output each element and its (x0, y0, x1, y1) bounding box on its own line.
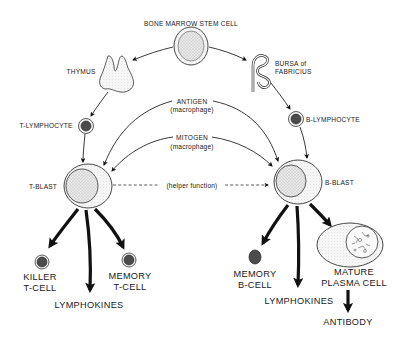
arrow-b-blast-to-memory-b (263, 205, 288, 243)
lymphokines-b-label: LYMPHOKINES (265, 296, 334, 306)
bursa-label-line2: FABRICIUS (275, 68, 312, 75)
t-lymphocyte-label: T-LYMPHOCYTE (19, 122, 73, 129)
mitogen-label: MITOGEN (176, 134, 208, 141)
helper-function-label: (helper function) (166, 182, 217, 190)
plasma-cell-label-line2: PLASMA CELL (321, 278, 387, 288)
thymus-label: THYMUS (66, 68, 95, 75)
bursa-label-line1: BURSA of (275, 60, 306, 67)
memory-t-cell-node: MEMORY T-CELL (109, 253, 152, 292)
arrow-stem-to-bursa (209, 47, 246, 60)
t-blast-node: T-BLAST (29, 164, 112, 208)
arrow-mitogen-to-b-blast (212, 137, 272, 166)
bursa-node: BURSA of FABRICIUS (253, 55, 312, 92)
arrow-mitogen-to-t-blast (112, 137, 173, 171)
plasma-cell-label-line1: MATURE (334, 267, 374, 277)
mitogen-sublabel: (macrophage) (170, 143, 213, 151)
arrow-stem-to-thymus (133, 47, 173, 60)
arrow-t-blast-to-killer (50, 209, 78, 246)
arrow-thymus-to-t-lymphocyte (91, 92, 108, 116)
antigen-sublabel: (macrophage) (170, 106, 213, 114)
memory-b-cell-node: MEMORY B-CELL (234, 250, 277, 290)
stem-cell-label: BONE MARROW STEM CELL (144, 20, 238, 27)
t-blast-label: T-BLAST (29, 183, 57, 190)
thymus-icon (100, 56, 134, 92)
arrow-b-lymphocyte-to-b-blast (300, 127, 307, 158)
killer-t-cell-node: KILLER T-CELL (23, 255, 57, 293)
killer-t-cell-label-line2: T-CELL (24, 283, 57, 293)
plasma-cell-node: MATURE PLASMA CELL (317, 223, 387, 288)
memory-b-cell-icon (249, 250, 261, 264)
arrow-t-lymphocyte-to-t-blast (83, 134, 85, 162)
memory-t-cell-label-line2: T-CELL (114, 282, 147, 292)
thymus-node: THYMUS (66, 56, 133, 92)
b-blast-node: B-BLAST (274, 160, 354, 204)
antigen-label: ANTIGEN (177, 98, 208, 105)
t-lymphocyte-node: T-LYMPHOCYTE (19, 119, 93, 134)
arrow-b-blast-to-plasma (310, 204, 330, 225)
memory-b-cell-label-line1: MEMORY (234, 269, 277, 279)
b-lymphocyte-node: B-LYMPHOCYTE (289, 112, 361, 127)
antibody-label: ANTIBODY (323, 317, 372, 327)
stem-cell-node: BONE MARROW STEM CELL (144, 20, 238, 65)
arrow-antigen-to-t-blast (104, 101, 172, 165)
mitogen-label-group: MITOGEN (macrophage) (170, 134, 213, 151)
b-blast-label: B-BLAST (325, 179, 354, 186)
lymphocyte-diagram: BONE MARROW STEM CELL THYMUS BURSA of FA… (0, 0, 402, 340)
helper-function-edge: (helper function) (113, 182, 268, 190)
memory-b-cell-label-line2: B-CELL (238, 280, 272, 290)
arrow-bursa-to-b-lymphocyte (271, 83, 290, 109)
antigen-label-group: ANTIGEN (macrophage) (170, 98, 213, 114)
lymphokines-t-label: LYMPHOKINES (55, 300, 124, 310)
arrow-b-blast-to-lymphokines (297, 206, 299, 285)
b-lymphocyte-label: B-LYMPHOCYTE (306, 116, 360, 123)
memory-t-cell-label-line1: MEMORY (109, 271, 152, 281)
arrow-t-blast-to-memory (95, 209, 123, 247)
arrow-antigen-to-b-blast (213, 101, 278, 161)
killer-t-cell-label-line1: KILLER (23, 272, 57, 282)
arrow-t-blast-to-lymphokines (86, 210, 90, 290)
